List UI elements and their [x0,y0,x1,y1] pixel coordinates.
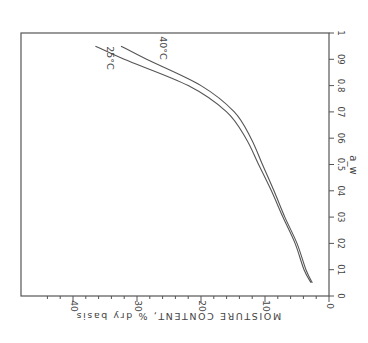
y-tick-label: 30 [133,300,143,312]
x-tick-label: 09 [336,54,346,65]
x-tick-label: 01 [336,264,346,275]
y-tick-label: 0 [325,303,335,309]
x-tick-label: 04 [336,185,346,196]
label-25c: 25°C [105,46,116,70]
y-tick-label: 10 [261,300,271,312]
y-tick-label: 40 [69,300,79,312]
axis-ticks [47,33,334,302]
x-tick-label: 03 [336,212,346,223]
x-tick-label: 06 [336,133,346,144]
x-tick-label: 02 [336,238,346,249]
curves [95,46,312,283]
x-tick-label: 0 [336,293,346,298]
x-axis-label: a_w [347,155,359,174]
y-axis-label: MOISTURE CONTENT, % dry basis [75,311,281,322]
curve-40c [121,46,312,283]
x-tick-label: 0.5 [336,158,346,172]
x-tick-label: 07 [336,106,346,117]
sorption-isotherm-chart: 0010203040.506070.8091010203040 25°C40°C… [0,0,368,343]
y-tick-label: 20 [197,300,207,312]
x-tick-label: 1 [336,30,346,35]
curve-25c [95,46,311,283]
x-tick-label: 0.8 [336,79,346,93]
label-40c: 40°C [158,36,169,60]
